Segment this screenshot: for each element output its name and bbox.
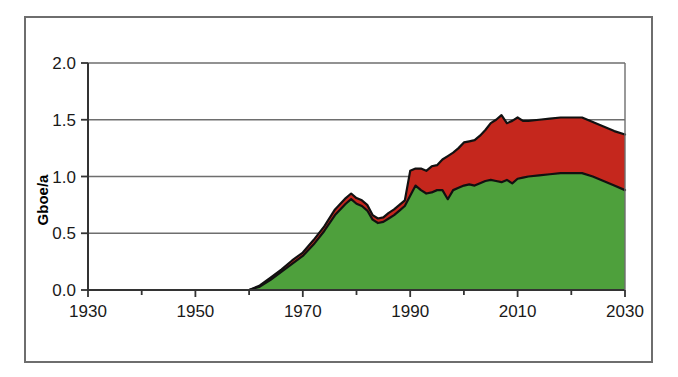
y-tick-label: 0.5 — [52, 224, 76, 243]
plot-layers: 193019501970199020102030 0.00.51.01.52.0… — [34, 54, 644, 321]
x-tick-label: 1970 — [284, 302, 322, 321]
x-axis-tick-labels: 193019501970199020102030 — [69, 302, 644, 321]
y-axis-title: Gboe/a — [34, 174, 51, 226]
x-tick-label: 1930 — [69, 302, 107, 321]
x-tick-label: 2010 — [499, 302, 537, 321]
figure-container: 193019501970199020102030 0.00.51.01.52.0… — [0, 0, 678, 377]
y-tick-label: 1.0 — [52, 168, 76, 187]
y-axis-tick-labels: 0.00.51.01.52.0 — [52, 54, 76, 300]
x-tick-label: 1990 — [391, 302, 429, 321]
x-tick-label: 2030 — [606, 302, 644, 321]
area-chart: 193019501970199020102030 0.00.51.01.52.0… — [0, 0, 678, 377]
y-tick-label: 1.5 — [52, 111, 76, 130]
x-tick-label: 1950 — [176, 302, 214, 321]
y-tick-label: 2.0 — [52, 54, 76, 73]
y-axis-ticks — [81, 63, 88, 290]
y-tick-label: 0.0 — [52, 281, 76, 300]
